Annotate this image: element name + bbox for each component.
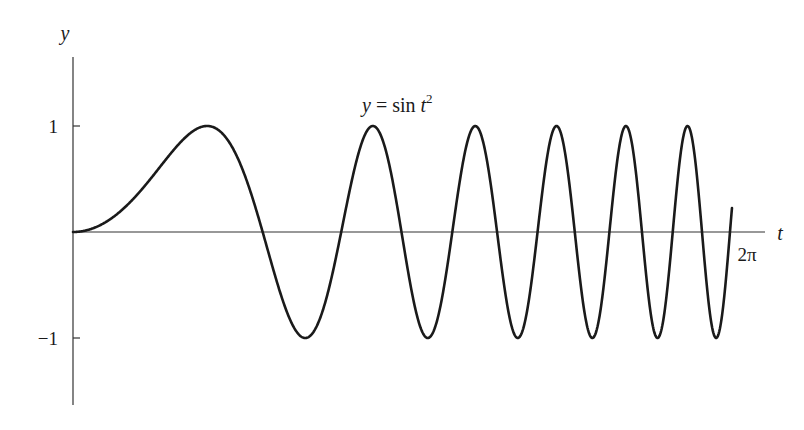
x-tick-label-2pi: 2π <box>737 244 757 265</box>
sin-t-squared-chart: y t 1 −1 2π y = sin t2 <box>0 0 804 430</box>
y-tick-label-1: 1 <box>49 116 59 137</box>
t-axis-label: t <box>777 222 783 244</box>
function-annotation: y = sin t2 <box>360 91 433 117</box>
y-tick-label-minus-1: −1 <box>38 328 58 349</box>
y-axis-label: y <box>59 22 70 45</box>
